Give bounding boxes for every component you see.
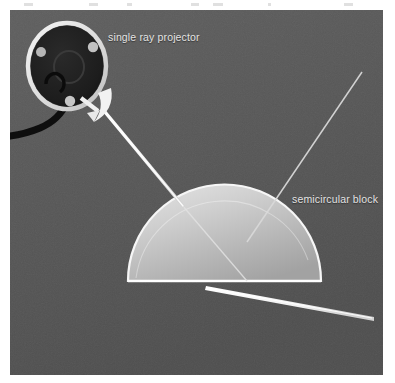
- projector-body: [31, 26, 104, 107]
- scan-artifact: [268, 3, 271, 6]
- projector-screw: [88, 42, 98, 52]
- scan-artifact: [191, 3, 199, 6]
- scan-artifact: [127, 3, 132, 6]
- scan-artifact: [344, 3, 353, 6]
- scan-artifact: [89, 3, 98, 6]
- optics-figure: single ray projector semicircular block: [0, 0, 395, 383]
- projector-screw: [36, 47, 46, 57]
- photo-canvas: [10, 10, 383, 375]
- photograph: [10, 10, 383, 375]
- scan-artifact-row: [0, 0, 395, 10]
- scan-artifact: [213, 3, 223, 6]
- projector-screw: [65, 96, 75, 106]
- single-ray-projector: [28, 23, 106, 109]
- scan-artifact: [24, 3, 33, 6]
